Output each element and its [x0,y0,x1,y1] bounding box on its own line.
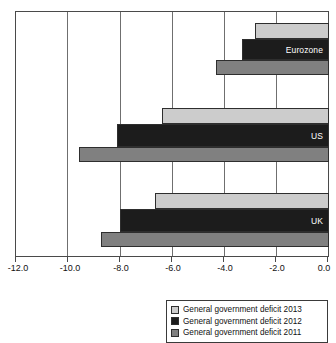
tick-mark [119,257,120,262]
tick-mark [67,257,68,262]
bar-uk-2012[interactable]: UK [120,209,329,232]
legend-swatch-icon [171,329,179,337]
tick-mark [327,257,328,262]
bar-group-label-eurozone: Eurozone [286,45,323,55]
bar-group-label-us: US [311,131,323,141]
bar-uk-2013[interactable] [155,193,329,209]
bar-eurozone-2012[interactable]: Eurozone [242,39,329,60]
legend-swatch-icon [171,317,179,325]
bar-us-2013[interactable] [162,108,329,124]
legend-label: General government deficit 2012 [183,316,302,328]
bar-eurozone-2013[interactable] [255,23,329,39]
bar-us-2012[interactable]: US [117,124,329,147]
legend-label: General government deficit 2011 [183,327,301,339]
x-tick-label: 0.0 [318,263,331,273]
legend-label: General government deficit 2013 [183,304,302,316]
legend-item-2012[interactable]: General government deficit 2012 [171,316,323,328]
x-tick-label: -12.0 [8,263,29,273]
legend-item-2011[interactable]: General government deficit 2011 [171,327,323,339]
legend-item-2013[interactable]: General government deficit 2013 [171,304,323,316]
tick-mark [223,257,224,262]
x-tick-label: -10.0 [60,263,81,273]
x-tick-label: -4.0 [217,263,233,273]
chart-legend: General government deficit 2013 General … [166,300,328,343]
x-tick-label: -8.0 [113,263,129,273]
legend-swatch-icon [171,306,179,314]
tick-mark [15,257,16,262]
x-tick-label: -6.0 [165,263,181,273]
x-tick-label: -2.0 [269,263,285,273]
bar-uk-2011[interactable] [101,232,329,247]
bar-eurozone-2011[interactable] [216,60,329,75]
bars-layer: Eurozone US UK [15,11,329,257]
tick-mark [275,257,276,262]
bar-us-2011[interactable] [79,147,329,162]
tick-mark [171,257,172,262]
bar-group-label-uk: UK [311,216,323,226]
